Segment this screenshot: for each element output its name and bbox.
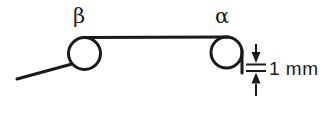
left-pulley-label: β xyxy=(73,4,85,28)
right-pulley-circle xyxy=(211,37,242,68)
right-pulley-label: α xyxy=(215,4,229,28)
figure-container: β α 1 mm xyxy=(0,0,335,123)
horizontal-span-line xyxy=(83,37,228,38)
dimension-label: 1 mm xyxy=(269,58,319,79)
dimension-arrow-upper-head xyxy=(252,52,261,63)
left-pulley-circle xyxy=(69,38,101,70)
incoming-filament-line xyxy=(17,64,72,79)
pulley-diagram: β α 1 mm xyxy=(0,0,335,123)
dimension-arrow-lower-head xyxy=(252,73,261,84)
